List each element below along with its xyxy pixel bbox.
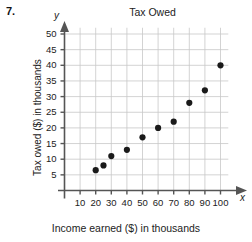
- axis-lines: [58, 21, 247, 199]
- y-tick-label: 35: [37, 76, 57, 86]
- data-point: [217, 62, 223, 68]
- y-tick-label: 15: [37, 139, 57, 149]
- horizontal-gridlines: [65, 34, 229, 175]
- y-tick-label: 25: [37, 107, 57, 117]
- data-point: [186, 100, 192, 106]
- data-point: [202, 87, 208, 93]
- data-point: [124, 147, 130, 153]
- data-point: [155, 125, 161, 131]
- data-point: [108, 153, 114, 159]
- scatter-plot-figure: 7. Tax Owed y x Tax owed ($) in thousand…: [0, 0, 252, 242]
- y-tick-label: 40: [37, 60, 57, 70]
- data-point: [171, 119, 177, 125]
- axis-ticks: [61, 34, 221, 195]
- y-tick-label: 45: [37, 45, 57, 55]
- y-tick-label: 20: [37, 123, 57, 133]
- data-point: [139, 134, 145, 140]
- data-point: [93, 167, 99, 173]
- data-point: [100, 162, 106, 168]
- x-tick-label: 100: [211, 198, 231, 208]
- y-tick-label: 5: [37, 170, 57, 180]
- y-tick-label: 10: [37, 154, 57, 164]
- y-tick-label: 50: [37, 29, 57, 39]
- y-tick-label: 30: [37, 92, 57, 102]
